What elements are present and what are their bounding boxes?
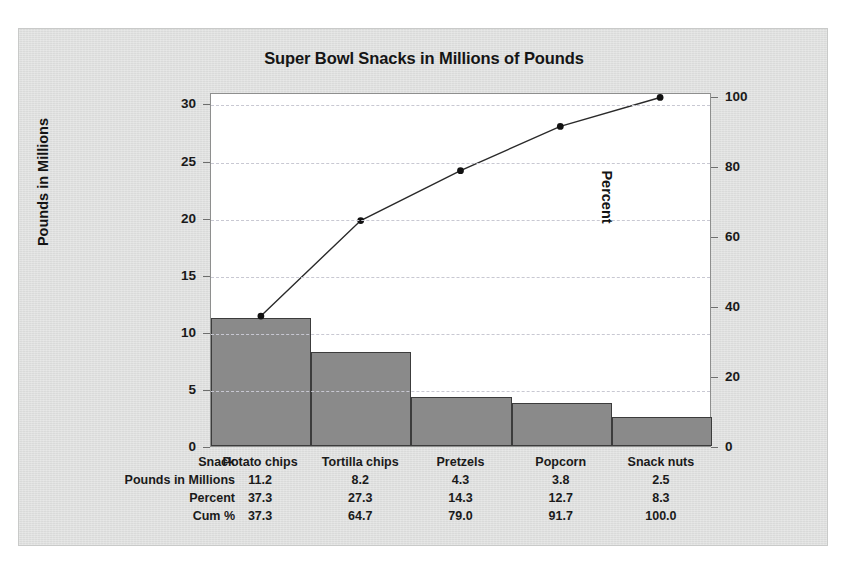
gridline [211, 277, 710, 278]
table-cell: 11.2 [210, 471, 310, 489]
table-cell: Tortilla chips [310, 453, 410, 471]
y-axis-left-tick-label: 20 [144, 212, 196, 226]
gridline [211, 105, 710, 106]
table-cell: 4.3 [410, 471, 510, 489]
y-axis-left-tick-label: 30 [144, 97, 196, 111]
y-axis-right-tick-label: 80 [725, 160, 777, 174]
y-axis-right-tick-label: 0 [725, 440, 777, 454]
table-row-label: Snack [39, 453, 235, 471]
pareto-data-table: SnackPotato chipsTortilla chipsPretzelsP… [39, 453, 739, 525]
y-axis-right-tick [711, 237, 718, 238]
y-axis-left-tick [203, 447, 210, 448]
y-axis-right-tick [711, 167, 718, 168]
y-axis-right-tick [711, 307, 718, 308]
y-axis-right-tick [711, 377, 718, 378]
y-axis-left-tick [203, 333, 210, 334]
table-cell: 2.5 [611, 471, 711, 489]
y-axis-left-title: Pounds in Millions [35, 82, 51, 282]
table-cell: 100.0 [611, 507, 711, 525]
table-cell: 37.3 [210, 507, 310, 525]
y-axis-left-tick-label: 25 [144, 155, 196, 169]
table-cell: Pretzels [410, 453, 510, 471]
y-axis-left-tick [203, 162, 210, 163]
y-axis-right-tick-label: 100 [725, 90, 777, 104]
y-axis-left-tick [203, 390, 210, 391]
plot-area [210, 93, 711, 447]
table-cell: 64.7 [310, 507, 410, 525]
y-axis-right-tick-label: 20 [725, 370, 777, 384]
table-cell: 27.3 [310, 489, 410, 507]
gridline [211, 163, 710, 164]
table-row: Cum %37.364.779.091.7100.0 [39, 507, 739, 525]
y-axis-right-tick [711, 97, 718, 98]
table-cell: 79.0 [410, 507, 510, 525]
table-cell: 3.8 [511, 471, 611, 489]
gridline [211, 220, 710, 221]
y-axis-left-tick-label: 10 [144, 326, 196, 340]
y-axis-left-tick-label: 0 [144, 440, 196, 454]
table-row-label: Percent [39, 489, 235, 507]
y-axis-left-tick [203, 104, 210, 105]
page-root: Super Bowl Snacks in Millions of Pounds … [0, 0, 846, 573]
table-row: SnackPotato chipsTortilla chipsPretzelsP… [39, 453, 739, 471]
y-axis-left-tick-label: 5 [144, 383, 196, 397]
table-cell: 12.7 [511, 489, 611, 507]
table-row: Percent37.327.314.312.78.3 [39, 489, 739, 507]
table-row: Pounds in Millions11.28.24.33.82.5 [39, 471, 739, 489]
pareto-chart-panel: Super Bowl Snacks in Millions of Pounds … [18, 28, 828, 546]
y-axis-right-tick-label: 60 [725, 230, 777, 244]
cumulative-marker [557, 123, 564, 130]
y-axis-right-tick [711, 447, 718, 448]
table-cell: Snack nuts [611, 453, 711, 471]
table-row-label: Pounds in Millions [39, 471, 235, 489]
cumulative-marker [657, 94, 664, 101]
y-axis-right-tick-label: 40 [725, 300, 777, 314]
cumulative-line-series [211, 94, 710, 446]
table-cell: Potato chips [210, 453, 310, 471]
table-cell: 14.3 [410, 489, 510, 507]
chart-title: Super Bowl Snacks in Millions of Pounds [19, 49, 829, 68]
y-axis-right-title: Percent [599, 142, 615, 252]
gridline [211, 334, 710, 335]
table-cell: 37.3 [210, 489, 310, 507]
cumulative-marker [258, 313, 265, 320]
table-cell: 91.7 [511, 507, 611, 525]
y-axis-left-tick-label: 15 [144, 269, 196, 283]
y-axis-left-tick [203, 276, 210, 277]
table-cell: 8.2 [310, 471, 410, 489]
cumulative-marker [457, 167, 464, 174]
y-axis-left-tick [203, 219, 210, 220]
table-row-label: Cum % [39, 507, 235, 525]
table-cell: 8.3 [611, 489, 711, 507]
table-cell: Popcorn [511, 453, 611, 471]
gridline [211, 391, 710, 392]
